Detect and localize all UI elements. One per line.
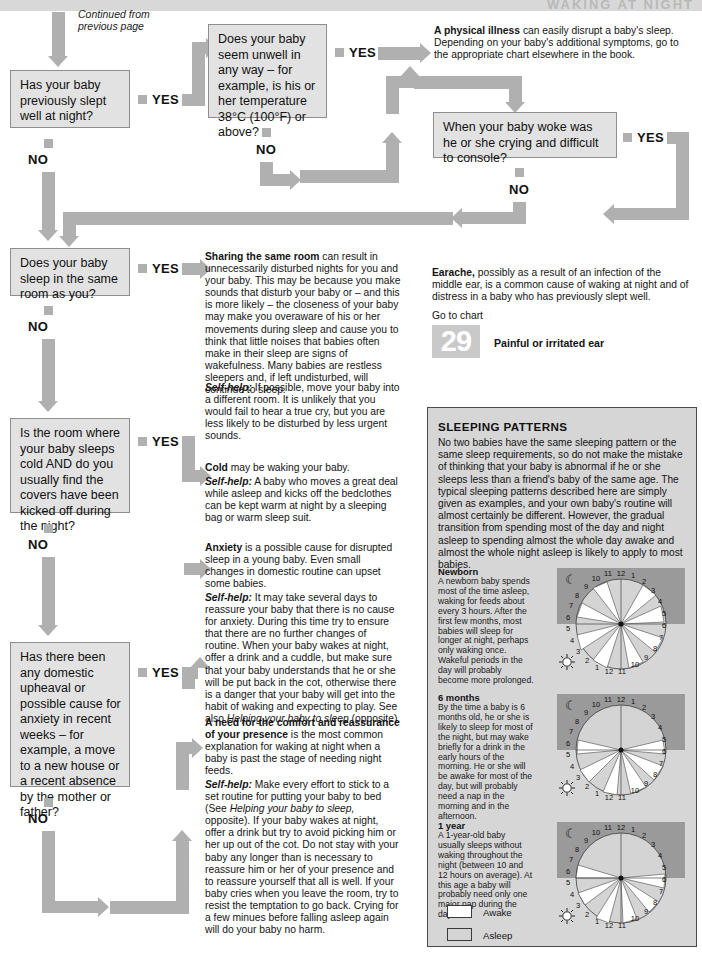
svg-text:11: 11 [618, 921, 626, 930]
arrow-q4-yes-h [182, 263, 200, 275]
advice-reassurance-selfhelp-lead: Self-help: [205, 779, 252, 790]
svg-text:10: 10 [592, 700, 600, 709]
svg-text:9: 9 [584, 582, 588, 591]
svg-text:12: 12 [617, 569, 625, 578]
svg-text:8: 8 [575, 717, 579, 726]
advice-anxiety-selfhelp-lead: Self-help: [205, 592, 252, 603]
svg-text:6: 6 [566, 613, 570, 622]
advice-cold-selfhelp: Self-help: A baby who moves a great deal… [205, 476, 401, 524]
svg-text:10: 10 [631, 914, 639, 923]
svg-text:6: 6 [662, 747, 666, 756]
arrow-q6-yes-elbow [182, 667, 198, 679]
arrow-q4-no-shaft [42, 339, 55, 401]
svg-text:10: 10 [631, 660, 639, 669]
svg-text:6: 6 [566, 867, 570, 876]
question-box-2[interactable]: Does your baby seem unwell in any way – … [208, 24, 327, 118]
svg-text:5: 5 [566, 750, 570, 759]
moon-icon: ☾ [565, 572, 577, 587]
question-box-5[interactable]: Is the room where your baby sleeps cold … [10, 418, 130, 513]
arrow-q5-yes-elbow [182, 470, 200, 482]
yes-chip-3 [623, 133, 632, 142]
svg-text:2: 2 [585, 782, 589, 791]
advice-sharing-room-lead: Sharing the same room [205, 251, 319, 262]
svg-text:5: 5 [566, 878, 570, 887]
clock-diagram-newborn: ☾ 1212 345 678 91011 1212 345 678 91011 [551, 562, 691, 690]
flowchart-page: WAKING AT NIGHT Continued from previous … [0, 0, 702, 956]
moon-icon: ☾ [565, 698, 577, 713]
svg-text:7: 7 [659, 759, 663, 768]
advice-reassurance-selfhelp-tail: opposite). If your baby wakes at night, … [205, 815, 398, 935]
svg-text:3: 3 [576, 901, 580, 910]
arrow-q3-no-h [462, 212, 526, 224]
question-box-4[interactable]: Does your baby sleep in the same room as… [10, 248, 130, 296]
svg-text:2: 2 [585, 656, 589, 665]
arrow-bottom-rail-v [176, 838, 189, 914]
advice-anxiety-selfhelp: Self-help: It may take several days to r… [205, 592, 401, 725]
svg-text:6: 6 [566, 739, 570, 748]
svg-text:10: 10 [631, 786, 639, 795]
svg-text:9: 9 [644, 779, 648, 788]
advice-cold: Cold may be waking your baby. [205, 462, 401, 474]
arrow-main-spine-tip [59, 236, 79, 247]
advice-cold-selfhelp-lead: Self-help: [205, 476, 252, 487]
chart-number-badge[interactable]: 29 [432, 325, 480, 358]
no-chip-3 [515, 168, 524, 177]
yes-label-1: YES [152, 92, 179, 107]
clock-svg-newborn: ☾ 1212 345 678 91011 1212 345 678 91011 [551, 562, 691, 686]
svg-text:12: 12 [617, 695, 625, 704]
arrow-entry-shaft [52, 12, 65, 56]
arrow-loop-left-elbow [386, 76, 414, 88]
advice-anxiety-lead: Anxiety [205, 542, 242, 553]
svg-text:9: 9 [644, 907, 648, 916]
svg-text:3: 3 [576, 647, 580, 656]
sleeping-patterns-title: SLEEPING PATTERNS [438, 420, 567, 433]
page-title: WAKING AT NIGHT [547, 0, 694, 12]
svg-text:4: 4 [570, 890, 574, 899]
advice-reassurance-selfhelp-italic: Helping your baby to sleep, [230, 803, 355, 814]
arrow-q3-yes-v [676, 132, 689, 220]
svg-text:8: 8 [575, 845, 579, 854]
sleeping-patterns-intro: No two babies have the same sleeping pat… [438, 437, 688, 571]
clock-svg-6months: ☾ 1212 345 678 91011 1212 345 678 91011 [551, 688, 691, 812]
svg-text:8: 8 [653, 644, 657, 653]
svg-text:7: 7 [659, 887, 663, 896]
yes-label-6: YES [152, 665, 179, 680]
advice-sharing-room-selfhelp-lead: Self-help: [205, 382, 252, 393]
yes-chip-4 [138, 264, 147, 273]
legend-swatch-awake [447, 905, 472, 918]
arrow-q3-yes-h2 [614, 208, 689, 220]
clock-svg-1year: ☾ 1212 345 678 91011 1212 345 678 91011 [551, 816, 691, 940]
svg-text:2: 2 [585, 910, 589, 919]
arrow-q3-yes-tip [603, 204, 614, 224]
no-chip-4 [44, 306, 53, 315]
sun-icon [559, 654, 575, 670]
svg-text:1: 1 [595, 663, 599, 672]
svg-text:2: 2 [642, 703, 646, 712]
advice-earache: Earache, possibly as a result of an infe… [432, 267, 694, 303]
question-box-6[interactable]: Has there been any domestic upheaval or … [10, 642, 130, 787]
svg-text:1: 1 [595, 917, 599, 926]
arrow-reassurance-elbow [176, 742, 192, 754]
question-box-1[interactable]: Has your baby previously slept well at n… [10, 70, 130, 128]
yes-chip-1 [138, 95, 147, 104]
advice-sharing-room: Sharing the same room can result in unne… [205, 251, 401, 396]
no-label-1: NO [28, 152, 48, 167]
yes-label-5: YES [152, 434, 179, 449]
svg-text:10: 10 [592, 828, 600, 837]
no-chip-6 [44, 798, 53, 807]
sun-icon [559, 780, 575, 796]
question-box-3[interactable]: When your baby woke was he or she crying… [433, 112, 617, 158]
svg-text:8: 8 [575, 591, 579, 600]
svg-text:11: 11 [604, 569, 612, 578]
arrow-reassurance-tip [192, 738, 203, 758]
yes-label-3: YES [637, 130, 664, 145]
svg-text:5: 5 [662, 609, 666, 618]
svg-text:3: 3 [651, 712, 655, 721]
arrow-q5-no-tip [38, 625, 58, 636]
arrow-q2-yes-tip [420, 43, 431, 63]
moon-icon: ☾ [565, 826, 577, 841]
svg-text:12: 12 [605, 793, 613, 802]
no-chip-2 [262, 128, 271, 137]
svg-text:3: 3 [651, 840, 655, 849]
arrow-bottom-rail-tip [172, 830, 192, 841]
